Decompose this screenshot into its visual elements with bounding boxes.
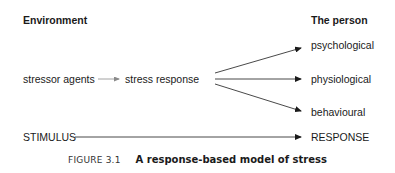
figure-number: FIGURE 3.1: [68, 155, 121, 165]
figure-title: A response-based model of stress: [136, 154, 327, 165]
to-behavioural-arrow: [215, 84, 301, 111]
arrows: [0, 0, 395, 173]
figure-caption: FIGURE 3.1 A response-based model of str…: [0, 153, 395, 165]
to-psychological-arrow: [215, 48, 301, 73]
